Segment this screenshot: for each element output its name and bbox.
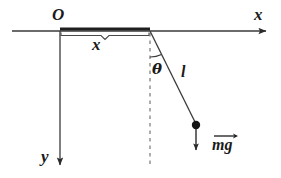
weight-label-text-wrap: mg: [212, 137, 232, 153]
pendulum-figure: O x x y θ l mg: [0, 0, 281, 178]
pendulum-bob: [192, 121, 200, 129]
displacement-brace: [61, 33, 149, 40]
angle-arc: [150, 55, 162, 58]
angle-label: θ: [152, 62, 162, 77]
weight-label-text: mg: [212, 136, 232, 153]
displacement-label: x: [92, 36, 101, 53]
string-length-label: l: [181, 64, 185, 80]
x-axis-label: x: [254, 6, 263, 23]
weight-label: mg: [212, 137, 232, 153]
y-axis-label: y: [41, 148, 49, 165]
origin-label: O: [52, 6, 64, 23]
